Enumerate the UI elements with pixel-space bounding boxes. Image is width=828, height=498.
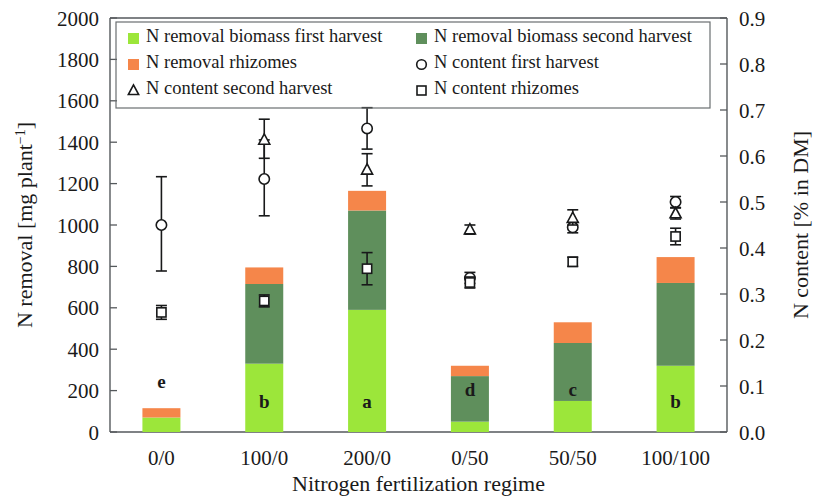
data-point-with-errorbar — [464, 277, 475, 288]
bar-segment[interactable] — [348, 191, 386, 211]
legend-item[interactable]: N content second harvest — [128, 78, 333, 98]
data-point-with-errorbar — [362, 108, 373, 149]
left-tick-label: 1600 — [57, 89, 99, 113]
bar-segment[interactable] — [245, 267, 283, 284]
significance-letter: a — [362, 391, 372, 412]
data-point-with-errorbar — [567, 210, 578, 225]
data-point-with-errorbar — [259, 295, 270, 307]
data-point-with-errorbar — [670, 208, 681, 220]
x-tick-label: 50/50 — [549, 446, 597, 470]
marker-circle-open[interactable] — [670, 197, 680, 207]
left-axis: 0200400600800100012001400160018002000 — [57, 7, 117, 445]
left-tick-label: 1000 — [57, 214, 99, 238]
legend-label: N content rhizomes — [434, 78, 579, 98]
legend-swatch-square-filled — [416, 33, 427, 44]
bar-segment[interactable] — [451, 422, 489, 432]
x-tick-label: 0/0 — [148, 446, 175, 470]
y-axis-title: N removal [mg plant−1] — [12, 122, 37, 328]
legend-swatch-square-filled — [128, 59, 139, 70]
left-tick-label: 2000 — [57, 7, 99, 31]
bar-segment[interactable] — [554, 401, 592, 432]
data-point-with-errorbar — [156, 177, 167, 271]
marker-square-open[interactable] — [260, 296, 269, 305]
legend-swatch-square-filled — [128, 33, 139, 44]
x-tick-label: 100/100 — [641, 446, 710, 470]
legend-item[interactable]: N removal biomass first harvest — [128, 26, 383, 46]
right-tick-label: 0.1 — [739, 375, 765, 399]
marker-triangle-open[interactable] — [259, 134, 270, 144]
data-point-with-errorbar — [362, 154, 373, 186]
right-tick-label: 0.9 — [739, 7, 765, 31]
right-tick-label: 0.7 — [739, 99, 765, 123]
bar-segment[interactable] — [348, 310, 386, 432]
markers-group — [156, 108, 681, 320]
data-point-with-errorbar — [464, 224, 475, 235]
bar-segment[interactable] — [451, 366, 489, 376]
nitrogen-removal-chart: 02004006008001000120014001600180020000.0… — [0, 0, 828, 498]
data-point-with-errorbar — [259, 119, 270, 158]
left-tick-label: 400 — [68, 338, 100, 362]
left-tick-label: 800 — [68, 255, 100, 279]
significance-letter: c — [569, 379, 577, 400]
legend-label: N content first harvest — [434, 52, 600, 72]
right-tick-label: 0.6 — [739, 145, 765, 169]
left-tick-label: 200 — [68, 379, 100, 403]
bar-segment[interactable] — [657, 257, 695, 283]
right-tick-label: 0.5 — [739, 191, 765, 215]
left-tick-label: 1200 — [57, 172, 99, 196]
legend-item[interactable]: N removal biomass second harvest — [416, 26, 693, 46]
bar-segment[interactable] — [657, 283, 695, 366]
data-point-with-errorbar — [156, 306, 167, 320]
right-tick-label: 0.4 — [739, 237, 766, 261]
significance-letter: b — [259, 391, 270, 412]
right-tick-label: 0.8 — [739, 53, 765, 77]
stacked-bar[interactable] — [554, 322, 592, 432]
figure-container: 02004006008001000120014001600180020000.0… — [0, 0, 828, 498]
right-tick-label: 0.3 — [739, 283, 765, 307]
legend-item[interactable]: N removal rhizomes — [128, 52, 297, 72]
marker-square-open[interactable] — [671, 232, 680, 241]
marker-square-open[interactable] — [157, 308, 166, 317]
significance-letter: e — [157, 371, 165, 392]
marker-square-open[interactable] — [362, 264, 371, 273]
x-axis-category-labels: 0/0100/0200/00/5050/50100/100 — [148, 446, 710, 470]
stacked-bar[interactable] — [142, 408, 180, 432]
bars-group — [142, 191, 694, 432]
bar-segment[interactable] — [554, 322, 592, 343]
right-tick-label: 0.2 — [739, 329, 765, 353]
marker-triangle-open[interactable] — [670, 208, 681, 218]
x-tick-label: 100/0 — [240, 446, 288, 470]
marker-circle-open[interactable] — [259, 174, 269, 184]
bar-segment[interactable] — [142, 408, 180, 417]
y2-axis-title: N content [% in DM] — [788, 131, 813, 319]
legend-label: N removal biomass first harvest — [146, 26, 383, 46]
legend: N removal biomass first harvestN removal… — [116, 22, 710, 108]
x-axis-title: Nitrogen fertilization regime — [292, 471, 545, 496]
legend-label: N removal biomass second harvest — [434, 26, 693, 46]
left-tick-label: 1800 — [57, 48, 99, 72]
data-point-with-errorbar — [567, 257, 578, 266]
x-tick-label: 200/0 — [343, 446, 391, 470]
left-tick-label: 0 — [89, 421, 100, 445]
legend-item[interactable]: N content rhizomes — [417, 78, 579, 98]
marker-square-open[interactable] — [568, 257, 577, 266]
bar-segment[interactable] — [142, 418, 180, 432]
significance-letters: ebadcb — [157, 371, 681, 412]
marker-square-open[interactable] — [465, 278, 474, 287]
left-tick-label: 1400 — [57, 131, 99, 155]
significance-letter: d — [465, 379, 476, 400]
left-tick-label: 600 — [68, 296, 100, 320]
marker-circle-open[interactable] — [362, 123, 372, 133]
x-tick-label: 0/50 — [451, 446, 488, 470]
legend-marker-square-open — [417, 86, 426, 95]
marker-triangle-open[interactable] — [567, 212, 578, 222]
legend-marker-triangle-open — [128, 85, 138, 95]
legend-label: N removal rhizomes — [146, 52, 297, 72]
right-tick-label: 0.0 — [739, 421, 765, 445]
marker-triangle-open[interactable] — [362, 164, 373, 174]
legend-label: N content second harvest — [146, 78, 333, 98]
marker-circle-open[interactable] — [156, 220, 166, 230]
significance-letter: b — [670, 391, 681, 412]
legend-item[interactable]: N content first harvest — [417, 52, 600, 72]
data-point-with-errorbar — [670, 228, 681, 245]
